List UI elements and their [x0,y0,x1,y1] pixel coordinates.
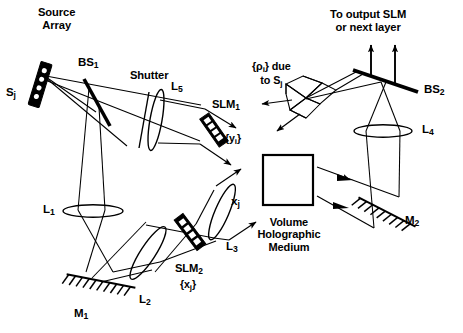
diffraction-fan [286,76,336,118]
lens-2-label: L2 [139,293,151,308]
ray-bundle-bs1-to-l1 [78,88,113,272]
mirror-1 [62,274,135,298]
slm-1-data-label: {yi} [225,133,241,147]
output-destination-label: To output SLMor next layer [330,8,406,33]
beam-splitter-2 [353,70,418,92]
lens-4 [354,125,412,137]
slm-1-label: SLM1 [212,98,240,112]
lens-3 [204,182,240,243]
source-element-label: Sj [6,86,16,101]
lens-5-label: L5 [171,80,183,95]
volume-medium-label: Volume Holographic Medium [254,216,324,253]
ray-direction-arrowheads [333,174,353,209]
source-array-label: Source Array [38,6,75,31]
volume-holographic-medium [263,155,313,205]
shutter-label: Shutter [130,69,168,82]
ray-bundle-l3-out [196,169,256,240]
figure-canvas: Source Array Sj BS1 Shutter L5 SLM1 {yi}… [0,0,463,333]
lens-2 [125,223,171,283]
lens-3-label: L3 [226,240,238,255]
lens-1-label: L1 [43,203,55,218]
mirror-1-label: M1 [74,307,88,322]
diffracted-order-arrows [262,100,300,131]
beam-splitter-1-label: BS1 [78,56,98,71]
beam-splitter-2-label: BS2 [424,83,444,98]
slm-2-label: SLM2 [175,262,203,276]
mirror-2-label: M2 [405,214,419,229]
lens-4-label: L4 [422,123,434,138]
ray-bundle-l5-to-slm1 [158,100,205,144]
slm-1 [200,113,229,147]
slm-2-data-label: {xj} [180,279,196,293]
diffraction-fan-label: {ρi} dueto Sj [252,60,291,88]
x-j-label: xj [231,195,240,210]
source-array [28,61,52,107]
optical-diagram-svg [0,0,463,333]
slm-2 [174,214,206,251]
lens-1 [63,205,123,217]
